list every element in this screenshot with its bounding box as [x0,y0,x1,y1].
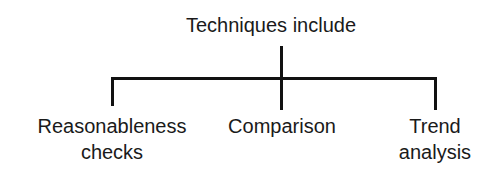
branch-connector-left [111,77,114,106]
branch-connector-right [434,77,437,110]
child-node-reasonableness-checks: Reasonableness checks [38,113,187,165]
child-node-trend-analysis: Trend analysis [399,113,471,165]
child-node-comparison: Comparison [228,113,336,139]
horizontal-connector [111,77,437,80]
root-node-label: Techniques include [186,12,356,38]
